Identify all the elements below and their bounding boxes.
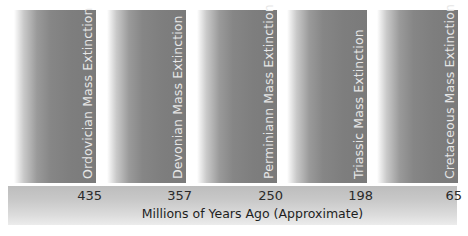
extinction-bar-triassic: Triassic Mass Extinction xyxy=(287,10,367,183)
extinction-bar-cretaceous: Cretaceous Mass Extinction xyxy=(377,10,458,183)
tick-label: 65 xyxy=(422,188,462,203)
tick-label: 198 xyxy=(333,188,373,203)
axis-title: Millions of Years Ago (Approximate) xyxy=(8,206,457,221)
extinction-bar-devonian: Devonian Mass Extinction xyxy=(107,10,186,183)
bar-label: Ordovician Mass Extinction xyxy=(80,7,95,179)
bar-label: Devonian Mass Extinction xyxy=(170,15,185,179)
tick-label: 250 xyxy=(243,188,283,203)
bar-label: Triassic Mass Extinction xyxy=(351,29,366,179)
tick-label: 357 xyxy=(152,188,192,203)
time-axis: 435 357 250 198 65 Millions of Years Ago… xyxy=(8,186,457,225)
tick-label: 435 xyxy=(62,188,102,203)
bar-label: Cretaceous Mass Extinction xyxy=(442,4,457,179)
bar-label: Perminiann Mass Extinction xyxy=(261,4,276,179)
extinction-bar-ordovician: Ordovician Mass Extinction xyxy=(14,10,96,183)
extinction-bar-permian: Perminiann Mass Extinction xyxy=(197,10,277,183)
